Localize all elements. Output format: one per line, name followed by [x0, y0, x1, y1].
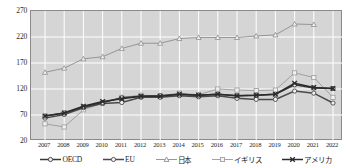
- legend-label: EU: [125, 155, 135, 164]
- data-point-circle-open: [111, 157, 115, 161]
- legend-label: アメリカ: [304, 154, 331, 165]
- series-line-OECD: [45, 85, 333, 116]
- legend-marker-square-open-icon: [212, 155, 233, 164]
- data-point-circle-open: [49, 157, 53, 161]
- data-point-square-open: [312, 75, 316, 79]
- legend-label: 日本: [178, 154, 192, 165]
- data-point-circle-open: [293, 89, 297, 93]
- chart-legend: OECDEU日本イギリスアメリカ: [30, 153, 342, 166]
- y-tick-label: 220: [16, 32, 27, 41]
- legend-item-EU[interactable]: EU: [103, 155, 135, 164]
- legend-marker-x-cross-icon: [282, 155, 303, 164]
- y-tick-label: 20: [20, 136, 27, 145]
- x-tick-label: 2018: [249, 141, 261, 148]
- data-series-layer: [31, 11, 343, 141]
- x-tick-label: 2019: [268, 141, 280, 148]
- legend-marker-triangle-open-icon: [156, 155, 177, 164]
- data-point-square-open: [293, 71, 297, 75]
- data-point-square-open: [273, 88, 277, 92]
- y-tick-label: 70: [20, 110, 27, 119]
- data-point-square-open: [221, 157, 225, 161]
- x-tick-label: 2010: [96, 141, 108, 148]
- data-point-square-open: [216, 87, 220, 91]
- y-tick-label: 170: [16, 58, 27, 67]
- x-axis: 2007200820092010201120122013201420152016…: [30, 141, 342, 152]
- legend-marker-circle-open-icon: [103, 155, 124, 164]
- legend-label: OECD: [62, 155, 82, 164]
- x-tick-label: 2011: [115, 141, 127, 148]
- x-tick-label: 2020: [288, 141, 300, 148]
- x-tick-label: 2014: [172, 141, 184, 148]
- y-tick-label: 120: [16, 84, 27, 93]
- data-point-circle-open: [254, 97, 258, 101]
- x-tick-label: 2009: [76, 141, 88, 148]
- data-point-square-open: [43, 122, 47, 126]
- legend-item-イギリス[interactable]: イギリス: [212, 154, 261, 165]
- x-tick-label: 2016: [211, 141, 223, 148]
- x-tick-label: 2008: [57, 141, 69, 148]
- x-tick-label: 2021: [307, 141, 319, 148]
- x-tick-label: 2013: [153, 141, 165, 148]
- x-tick-label: 2015: [192, 141, 204, 148]
- data-point-circle-open: [331, 101, 335, 105]
- x-tick-label: 2017: [230, 141, 242, 148]
- data-point-square-open: [254, 88, 258, 92]
- series-line-日本: [45, 24, 314, 72]
- legend-item-日本[interactable]: 日本: [156, 154, 192, 165]
- x-tick-label: 2007: [38, 141, 50, 148]
- series-line-アメリカ: [45, 83, 333, 116]
- data-point-square-open: [235, 88, 239, 92]
- data-point-circle-open: [312, 91, 316, 95]
- x-tick-label: 2022: [326, 141, 338, 148]
- legend-marker-circle-open-icon: [40, 155, 61, 164]
- legend-label: イギリス: [234, 154, 261, 165]
- legend-item-アメリカ[interactable]: アメリカ: [282, 154, 331, 165]
- data-point-circle-open: [273, 97, 277, 101]
- y-tick-label: 270: [16, 6, 27, 15]
- legend-item-OECD[interactable]: OECD: [40, 155, 82, 164]
- data-point-triangle-open: [62, 66, 67, 71]
- x-tick-label: 2012: [134, 141, 146, 148]
- data-point-square-open: [62, 125, 66, 129]
- line-chart: 2070120170220270 20072008200920102011201…: [0, 0, 348, 168]
- data-point-square-open: [331, 95, 335, 99]
- series-line-イギリス: [45, 73, 333, 127]
- plot-area: [30, 10, 342, 140]
- y-axis: 2070120170220270: [0, 0, 30, 145]
